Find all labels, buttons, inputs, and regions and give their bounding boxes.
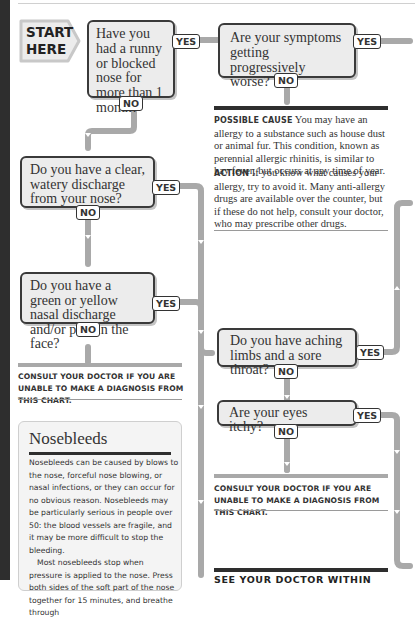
section-rule-thin — [214, 230, 388, 231]
section-rule-thin — [18, 399, 182, 400]
no-label[interactable]: NO — [274, 424, 298, 439]
consult-doctor-note: Consult your doctor if you are unable to… — [214, 483, 390, 519]
question-itchy-eyes: Are your eyes itchy? — [217, 400, 357, 426]
consult-doctor-note: Consult your doctor if you are unable to… — [18, 371, 186, 407]
nosebleeds-body: Nosebleeds can be caused by blows to the… — [29, 457, 179, 620]
no-label[interactable]: NO — [274, 364, 298, 379]
possible-cause-label: Possible cause — [214, 116, 293, 125]
yes-label[interactable]: YES — [353, 408, 381, 423]
no-label[interactable]: NO — [274, 73, 298, 88]
yes-label[interactable]: YES — [152, 296, 180, 311]
question-runny-nose: Have you had a runny or blocked nose for… — [87, 20, 175, 98]
yes-label[interactable]: YES — [172, 34, 200, 49]
start-here-marker: START HERE — [18, 18, 80, 62]
question-watery-discharge: Do you have a clear, watery discharge fr… — [20, 156, 155, 208]
start-line-1: START — [26, 24, 73, 41]
no-label[interactable]: NO — [119, 96, 143, 111]
section-rule — [214, 106, 388, 110]
see-doctor-heading: SEE YOUR DOCTOR WITHIN — [214, 574, 371, 585]
yes-label[interactable]: YES — [152, 180, 180, 195]
action-label: Action — [214, 169, 249, 178]
no-label[interactable]: NO — [76, 205, 100, 220]
nosebleeds-paragraph-2: Most nosebleeds stop when pressure is ap… — [29, 557, 179, 620]
question-aching-limbs: Do you have aching limbs and a sore thro… — [217, 328, 357, 367]
action-text: Action If you know what causes your alle… — [214, 167, 390, 231]
nosebleeds-panel: Nosebleeds Nosebleeds can be caused by b… — [18, 421, 182, 591]
question-green-discharge: Do you have a green or yellow nasal disc… — [20, 272, 155, 324]
question-text: Do you have a clear, watery discharge fr… — [30, 162, 145, 206]
yes-label[interactable]: YES — [353, 34, 381, 49]
panel-rule — [29, 452, 171, 455]
nosebleeds-title: Nosebleeds — [29, 429, 107, 449]
start-line-2: HERE — [26, 41, 73, 58]
yes-label[interactable]: YES — [356, 345, 384, 360]
section-rule — [214, 568, 388, 572]
no-label[interactable]: NO — [76, 322, 100, 337]
section-rule-thin — [214, 510, 388, 511]
question-symptoms-worse: Are your symptoms getting progressively … — [218, 23, 356, 78]
nosebleeds-paragraph-1: Nosebleeds can be caused by blows to the… — [29, 457, 179, 557]
